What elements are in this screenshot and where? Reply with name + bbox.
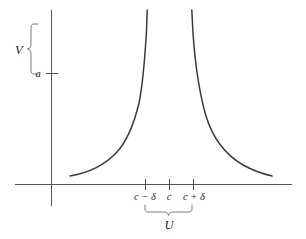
curve-left-branch xyxy=(70,10,147,176)
v-range-brace xyxy=(28,24,39,74)
curve-right-branch xyxy=(192,10,272,176)
y-threshold-label-a: a xyxy=(35,68,40,79)
x-tick-label-c-minus-delta: c − δ xyxy=(134,191,157,202)
x-tick-label-c-plus-delta: c + δ xyxy=(183,191,206,202)
x-tick-label-c: c xyxy=(167,191,172,202)
y-range-label-v: V xyxy=(15,43,24,57)
x-interval-label-u: U xyxy=(164,218,174,232)
math-diagram-svg: V a c − δ c c + δ U xyxy=(0,0,306,239)
u-interval-brace xyxy=(145,205,192,216)
figure-container: V a c − δ c c + δ U xyxy=(0,0,306,239)
